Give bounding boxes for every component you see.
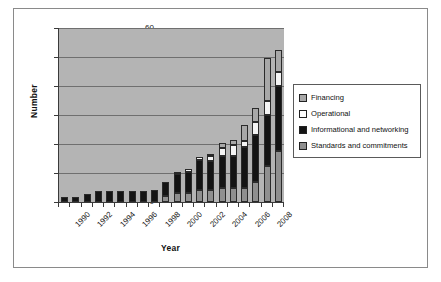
x-tick-mark	[81, 203, 82, 207]
bar-segment	[185, 169, 192, 172]
bar-2001	[185, 28, 192, 202]
bar-segment	[241, 188, 248, 203]
bar-segment	[207, 161, 214, 190]
bar-2009	[275, 28, 282, 202]
bar-1993	[95, 28, 102, 202]
bar-2003	[207, 28, 214, 202]
bar-2000	[174, 28, 181, 202]
gridline	[59, 144, 284, 145]
bar-1995	[117, 28, 124, 202]
bar-segment	[162, 196, 169, 202]
bar-segment	[140, 191, 147, 202]
bar-segment	[185, 172, 192, 194]
legend-swatch-icon	[299, 142, 307, 150]
x-tick-mark	[58, 203, 59, 207]
bar-segment	[129, 191, 136, 202]
legend-item: Financing	[299, 90, 344, 105]
x-tick-mark	[137, 203, 138, 207]
bar-segment	[106, 191, 113, 202]
bar-segment	[241, 141, 248, 147]
bar-segment	[72, 197, 79, 202]
bar-2004	[219, 28, 226, 202]
bar-segment	[230, 156, 237, 188]
bar-1996	[129, 28, 136, 202]
x-tick-mark	[283, 203, 284, 207]
bar-segment	[207, 154, 214, 156]
bar-segment	[207, 190, 214, 202]
x-tick-mark	[171, 203, 172, 207]
legend-label: Financing	[311, 94, 344, 102]
bar-segment	[264, 58, 271, 100]
legend-item: Informational and networking	[299, 122, 409, 137]
chart-legend: FinancingOperationalInformational and ne…	[293, 84, 421, 158]
bar-segment	[252, 182, 259, 202]
x-tick-mark	[216, 203, 217, 207]
x-tick-mark	[249, 203, 250, 207]
bar-segment	[230, 188, 237, 203]
bar-segment	[117, 191, 124, 202]
bar-segment	[196, 157, 203, 160]
bar-segment	[252, 122, 259, 135]
x-tick-mark	[261, 203, 262, 207]
bar-segment	[174, 174, 181, 193]
bar-2007	[252, 28, 259, 202]
bar-segment	[275, 72, 282, 87]
x-tick-mark	[238, 203, 239, 207]
bar-segment	[196, 160, 203, 190]
bar-segment	[162, 182, 169, 197]
bar-segment	[174, 172, 181, 174]
bar-1992	[84, 28, 91, 202]
bar-segment	[219, 188, 226, 203]
x-tick-mark	[114, 203, 115, 207]
bar-1990	[61, 28, 68, 202]
x-tick-mark	[92, 203, 93, 207]
chart-figure: Number 0102030405060 1990199219941996199…	[0, 0, 441, 282]
legend-label: Informational and networking	[311, 126, 409, 134]
bar-1994	[106, 28, 113, 202]
x-tick-mark	[272, 203, 273, 207]
bar-segment	[219, 148, 226, 155]
bar-segment	[174, 193, 181, 202]
x-tick-mark	[204, 203, 205, 207]
legend-item: Operational	[299, 106, 350, 121]
bar-segment	[84, 194, 91, 202]
bar-segment	[252, 108, 259, 123]
bar-1997	[140, 28, 147, 202]
bar-segment	[264, 166, 271, 202]
bar-segment	[95, 191, 102, 202]
bar-segment	[196, 190, 203, 202]
bar-segment	[219, 156, 226, 188]
x-tick-mark	[227, 203, 228, 207]
bar-2005	[230, 28, 237, 202]
bar-segment	[219, 143, 226, 149]
legend-swatch-icon	[299, 94, 307, 102]
bar-1991	[72, 28, 79, 202]
legend-swatch-icon	[299, 126, 307, 134]
bar-segment	[275, 86, 282, 151]
bar-2002	[196, 28, 203, 202]
bar-1998	[151, 28, 158, 202]
y-axis-title: Number	[29, 61, 39, 141]
bar-segment	[61, 197, 68, 202]
x-tick-mark	[103, 203, 104, 207]
x-tick-mark	[148, 203, 149, 207]
bar-segment	[185, 193, 192, 202]
x-axis-title: Year	[58, 243, 283, 253]
plot-area	[58, 28, 284, 203]
bar-segment	[230, 140, 237, 146]
x-tick-mark	[182, 203, 183, 207]
bar-segment	[264, 101, 271, 116]
bar-segment	[207, 156, 214, 162]
bar-segment	[275, 50, 282, 72]
gridline	[59, 86, 284, 87]
bar-segment	[252, 135, 259, 181]
x-tick-mark	[126, 203, 127, 207]
legend-swatch-icon	[299, 110, 307, 118]
bar-segment	[151, 190, 158, 202]
x-tick-mark	[69, 203, 70, 207]
bar-segment	[275, 151, 282, 202]
bar-2006	[241, 28, 248, 202]
legend-label: Operational	[311, 110, 350, 118]
gridline	[59, 173, 284, 174]
gridline	[59, 115, 284, 116]
